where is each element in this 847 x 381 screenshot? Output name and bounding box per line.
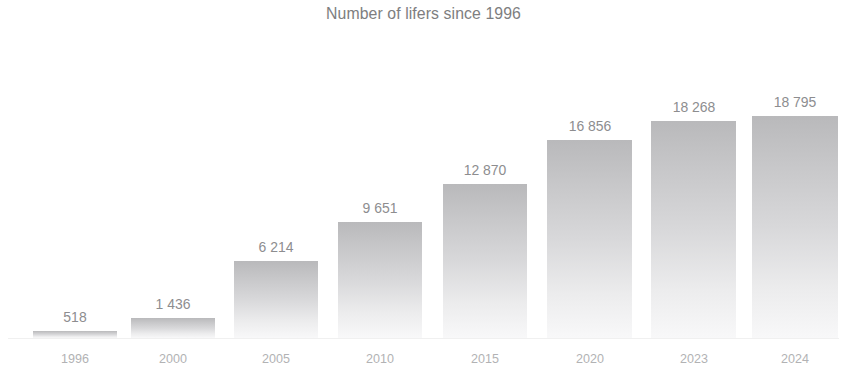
bar[interactable] (338, 222, 422, 338)
x-axis-tick-label: 2023 (680, 351, 708, 367)
bar[interactable] (651, 121, 736, 338)
bar-group: 16 8562020 (547, 0, 632, 381)
x-axis-tick-label: 2015 (471, 351, 499, 367)
x-axis-tick-label: 2010 (366, 351, 394, 367)
bar-value-label: 16 856 (568, 117, 611, 134)
bar-value-label: 1 436 (156, 295, 191, 312)
x-axis-tick-label: 2005 (262, 351, 290, 367)
bar-value-label: 518 (63, 308, 86, 325)
bar[interactable] (752, 116, 838, 338)
bar-group: 18 2682023 (651, 0, 736, 381)
bar[interactable] (131, 318, 215, 338)
bar[interactable] (33, 331, 117, 338)
bar-group: 9 6512010 (338, 0, 422, 381)
bar-group: 1 4362000 (131, 0, 215, 381)
x-axis-tick-label: 2000 (159, 351, 187, 367)
bar[interactable] (234, 261, 318, 338)
bar[interactable] (443, 184, 527, 338)
bar-group: 12 8702015 (443, 0, 527, 381)
bar-group: 5181996 (33, 0, 117, 381)
x-axis-tick-label: 1996 (61, 351, 89, 367)
bar[interactable] (547, 140, 632, 338)
bar-value-label: 18 268 (672, 98, 715, 115)
x-axis-tick-label: 2020 (576, 351, 604, 367)
x-axis-tick-label: 2024 (781, 351, 809, 367)
plot-area: 51819961 43620006 21420059 651201012 870… (0, 0, 847, 381)
bar-group: 18 7952024 (752, 0, 838, 381)
bar-value-label: 6 214 (259, 238, 294, 255)
bar-chart: Number of lifers since 1996 51819961 436… (0, 0, 847, 381)
bar-value-label: 9 651 (363, 199, 398, 216)
bar-value-label: 12 870 (464, 161, 507, 178)
bar-value-label: 18 795 (774, 93, 817, 110)
bar-group: 6 2142005 (234, 0, 318, 381)
